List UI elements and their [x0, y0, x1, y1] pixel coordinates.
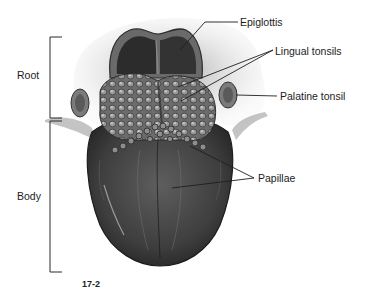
palatine-tonsil-right — [219, 82, 237, 108]
body-bracket — [50, 121, 62, 272]
region-label-body: Body — [17, 190, 41, 202]
region-label-root: Root — [17, 69, 39, 81]
label-papillae: Papillae — [258, 172, 295, 184]
palatine-tonsil-left — [71, 89, 89, 117]
label-palatine-tonsil: Palatine tonsil — [280, 90, 345, 102]
label-epiglottis: Epiglottis — [240, 16, 283, 28]
label-lingual-tonsils: Lingual tonsils — [275, 45, 342, 57]
root-bracket — [50, 37, 62, 118]
tongue — [87, 74, 232, 266]
epiglottis — [110, 29, 203, 78]
figure-caption-fragment: 17-2 — [82, 279, 100, 289]
